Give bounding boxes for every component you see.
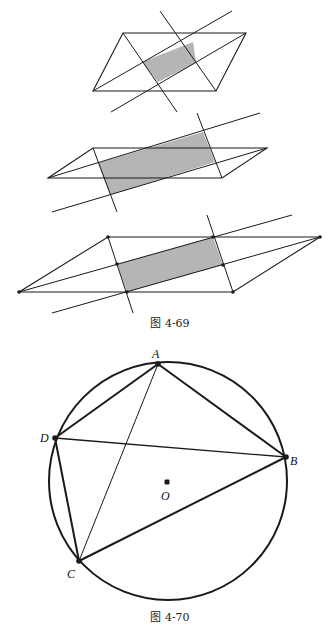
construction-line [160, 11, 216, 91]
label-c: C [67, 567, 76, 581]
vertex-dot [125, 290, 129, 294]
shaded-region [142, 42, 196, 82]
vertex-dot [318, 235, 322, 239]
vertex-dot [106, 235, 110, 239]
point-d [52, 435, 58, 441]
parallelogram-panel-3 [17, 215, 322, 313]
segment-AD [55, 364, 158, 438]
figure-4-70: ABCDO [39, 347, 298, 600]
shaded-region [98, 132, 215, 195]
vertex-dot [17, 290, 21, 294]
parallelogram-panel-2 [48, 113, 267, 212]
label-b: B [290, 454, 298, 468]
segment-AB [158, 364, 286, 457]
caption-figure-4-70: 图 4-70 [150, 611, 189, 624]
caption-figure-4-69: 图 4-69 [150, 317, 189, 330]
label-a: A [151, 347, 160, 361]
segment-CB [79, 457, 286, 561]
geometry-figures: 图 4-69 ABCDO 图 4-70 [0, 0, 333, 630]
shaded-region [117, 237, 223, 292]
point-b [283, 454, 289, 460]
point-c [76, 558, 82, 564]
segment-DB [55, 438, 286, 457]
parallelogram-panel-1 [93, 11, 246, 112]
label-o: O [161, 489, 170, 503]
label-d: D [39, 431, 49, 445]
center-point-o [165, 480, 170, 485]
vertex-dot [115, 262, 119, 266]
figure-4-69 [17, 11, 322, 313]
vertex-dot [221, 263, 225, 267]
point-a [155, 361, 161, 367]
vertex-dot [211, 235, 215, 239]
vertex-dot [231, 290, 235, 294]
